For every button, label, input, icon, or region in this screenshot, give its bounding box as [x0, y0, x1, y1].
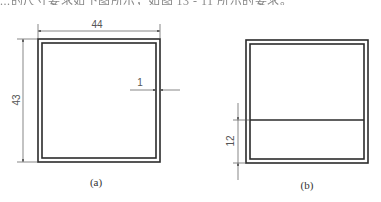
figure-b-caption: (b)	[301, 179, 314, 192]
figure-b: 12 (b)	[225, 40, 368, 192]
figure-a-outer-frame	[38, 39, 160, 162]
figure-a: 44 43 1 (a)	[11, 19, 180, 189]
dimension-label-wall: 1	[137, 77, 143, 88]
technical-drawing: 44 43 1 (a) 12 (b)	[0, 0, 381, 202]
figure-a-caption: (a)	[90, 176, 103, 189]
figure-b-outer-frame	[246, 40, 368, 163]
dimension-label-height: 43	[11, 94, 22, 106]
figure-b-inner-frame	[250, 44, 364, 159]
dimension-label-width: 44	[91, 19, 103, 30]
figure-a-inner-frame	[42, 43, 156, 158]
dimension-label-offset: 12	[225, 135, 236, 147]
